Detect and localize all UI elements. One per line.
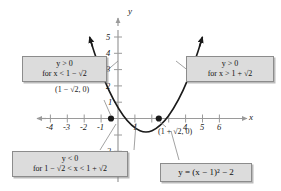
callout-negative: y < 0 for 1 − √2 < x < 1 + √2 <box>12 151 128 177</box>
callout-left-line2: for x < 1 − √2 <box>27 69 102 79</box>
x-tick--1: -1 <box>97 123 104 132</box>
equation-text: y = (x − 1)² − 2 <box>165 167 247 178</box>
callout-negative-line1: y < 0 <box>17 154 123 164</box>
callout-right-positive: y > 0 for x > 1 + √2 <box>186 56 274 82</box>
x-tick--3: -3 <box>63 123 70 132</box>
right-root-label: (1 + √2, 0) <box>158 128 192 136</box>
y-tick-5: 5 <box>106 33 110 42</box>
x-axis-label: x <box>249 113 253 122</box>
y-tick-2: 2 <box>106 82 110 91</box>
y-tick-1: 1 <box>108 98 112 107</box>
x-tick-6: 6 <box>217 123 221 132</box>
x-tick--4: -4 <box>46 123 53 132</box>
callout-right-line2: for x > 1 + √2 <box>191 69 269 79</box>
x-tick-5: 5 <box>200 123 204 132</box>
callout-equation: y = (x − 1)² − 2 <box>160 163 252 182</box>
x-tick--2: -2 <box>80 123 87 132</box>
parabola-sign-chart: -4 -3 -2 -1 1 4 5 6 5 4 3 2 1 -2 -3 y x … <box>0 0 281 191</box>
callout-right-line1: y > 0 <box>191 59 269 69</box>
leader-lines <box>100 61 190 160</box>
callout-left-positive: y > 0 for x < 1 − √2 <box>22 56 107 82</box>
x-tick-1: 1 <box>133 123 137 132</box>
callout-negative-line2: for 1 − √2 < x < 1 + √2 <box>17 164 123 174</box>
callout-left-line1: y > 0 <box>27 59 102 69</box>
left-root-label: (1 − √2, 0) <box>55 86 89 94</box>
y-axis-label: y <box>128 7 132 16</box>
